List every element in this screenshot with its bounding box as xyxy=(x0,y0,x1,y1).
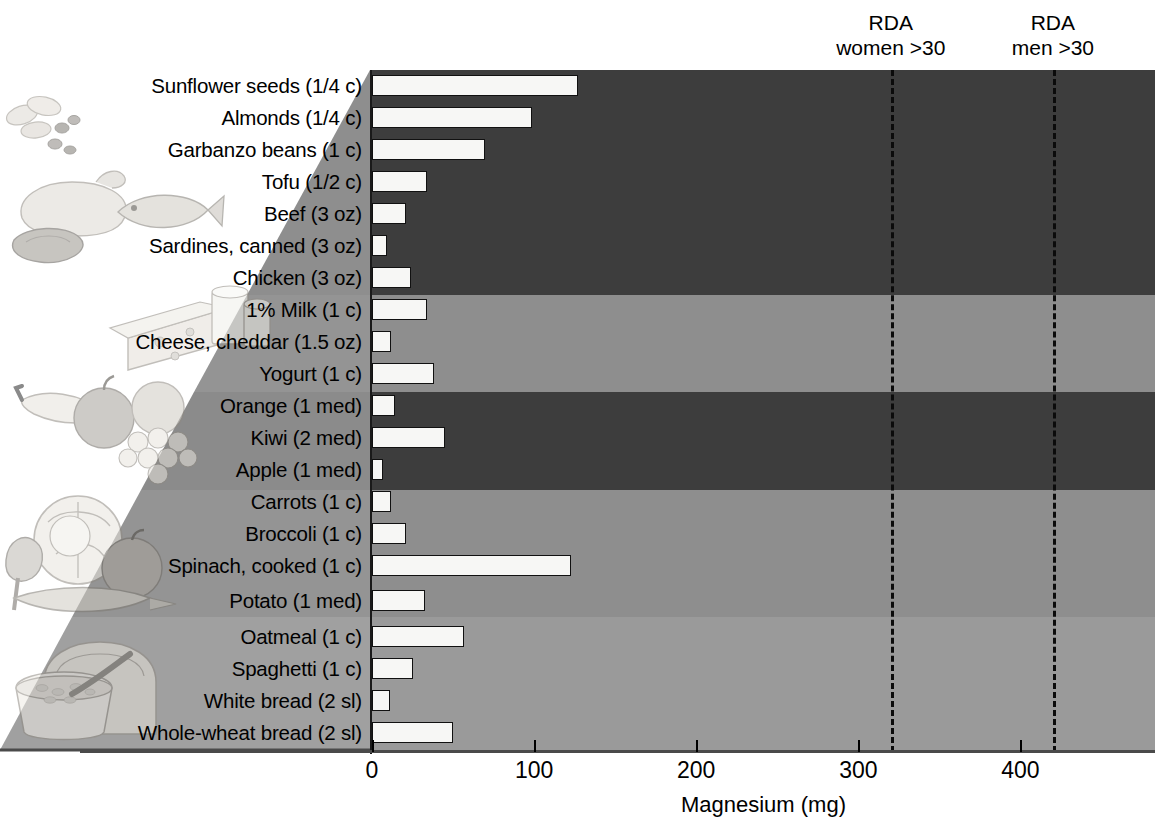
x-tick xyxy=(858,740,860,752)
category-label: Cheese, cheddar (1.5 oz) xyxy=(0,326,362,358)
x-tick xyxy=(534,740,536,752)
category-label: Almonds (1/4 c) xyxy=(0,102,362,134)
category-label: Kiwi (2 med) xyxy=(0,422,362,454)
bar xyxy=(372,626,464,647)
bar xyxy=(372,658,413,679)
category-label: Orange (1 med) xyxy=(0,390,362,422)
category-label: Sardines, canned (3 oz) xyxy=(0,230,362,262)
bar xyxy=(372,523,406,544)
bar xyxy=(372,267,411,288)
rda-men-caption: RDA men >30 xyxy=(953,10,1153,60)
bar-row xyxy=(372,621,1155,653)
x-tick xyxy=(372,740,374,752)
x-tick xyxy=(1020,740,1022,752)
bar xyxy=(372,203,406,224)
bar xyxy=(372,491,391,512)
bar-row xyxy=(372,585,1155,617)
bar-row xyxy=(372,358,1155,390)
bar-row xyxy=(372,326,1155,358)
bar xyxy=(372,459,383,480)
bar xyxy=(372,555,571,576)
bar-row xyxy=(372,454,1155,486)
bar xyxy=(372,690,390,711)
bar-row xyxy=(372,518,1155,550)
bar-row xyxy=(372,486,1155,518)
bar-row xyxy=(372,230,1155,262)
bar xyxy=(372,75,578,96)
bar-row xyxy=(372,685,1155,717)
bar-row xyxy=(372,550,1155,582)
bar xyxy=(372,331,391,352)
bar-row xyxy=(372,262,1155,294)
bar-row xyxy=(372,102,1155,134)
category-label-column: Sunflower seeds (1/4 c) Almonds (1/4 c) … xyxy=(0,70,366,752)
bar-row xyxy=(372,70,1155,102)
bar xyxy=(372,395,395,416)
category-label: Spaghetti (1 c) xyxy=(0,653,362,685)
category-label: Oatmeal (1 c) xyxy=(0,621,362,653)
bar-row xyxy=(372,294,1155,326)
category-label: Broccoli (1 c) xyxy=(0,518,362,550)
category-label: Sunflower seeds (1/4 c) xyxy=(0,70,362,102)
bar-row xyxy=(372,134,1155,166)
bar xyxy=(372,722,453,743)
bar-row xyxy=(372,198,1155,230)
bar xyxy=(372,139,485,160)
category-label: 1% Milk (1 c) xyxy=(0,294,362,326)
category-label: Spinach, cooked (1 c) xyxy=(0,550,362,582)
chart-canvas: Sunflower seeds (1/4 c) Almonds (1/4 c) … xyxy=(0,0,1176,832)
bar-row xyxy=(372,653,1155,685)
category-label: Garbanzo beans (1 c) xyxy=(0,134,362,166)
bar xyxy=(372,363,434,384)
bar xyxy=(372,299,427,320)
category-label: White bread (2 sl) xyxy=(0,685,362,717)
x-tick-label: 100 xyxy=(515,756,553,784)
plot-area xyxy=(372,70,1155,752)
bar xyxy=(372,235,387,256)
bar xyxy=(372,171,427,192)
x-tick-label: 400 xyxy=(1001,756,1039,784)
x-axis-title: Magnesium (mg) xyxy=(372,792,1155,818)
bar xyxy=(372,107,532,128)
rda-line-men xyxy=(1053,70,1056,752)
category-label: Potato (1 med) xyxy=(0,585,362,617)
y-axis-spine xyxy=(370,70,372,754)
category-label: Beef (3 oz) xyxy=(0,198,362,230)
category-label: Chicken (3 oz) xyxy=(0,262,362,294)
category-label: Whole-wheat bread (2 sl) xyxy=(0,717,362,749)
bar xyxy=(372,590,425,611)
bar-row xyxy=(372,166,1155,198)
bar xyxy=(372,427,445,448)
rda-line-women xyxy=(891,70,894,752)
x-tick-label: 200 xyxy=(677,756,715,784)
category-label: Yogurt (1 c) xyxy=(0,358,362,390)
x-tick-label: 300 xyxy=(839,756,877,784)
bar-row xyxy=(372,422,1155,454)
rda-men-line1: RDA xyxy=(953,10,1153,35)
bar-row xyxy=(372,390,1155,422)
category-label: Carrots (1 c) xyxy=(0,486,362,518)
x-axis: 0100200300400 xyxy=(372,752,1155,753)
rda-men-line2: men >30 xyxy=(953,35,1153,60)
category-label: Tofu (1/2 c) xyxy=(0,166,362,198)
x-tick xyxy=(696,740,698,752)
x-tick-label: 0 xyxy=(366,756,379,784)
category-label: Apple (1 med) xyxy=(0,454,362,486)
bar-row xyxy=(372,717,1155,749)
